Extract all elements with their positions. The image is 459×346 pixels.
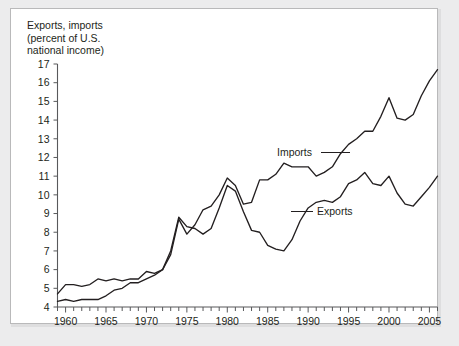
x-tick-label: 1975 xyxy=(175,315,199,327)
x-tick-label: 2000 xyxy=(377,315,401,327)
x-tick-label: 1960 xyxy=(54,315,78,327)
x-tick-label: 1985 xyxy=(256,315,280,327)
y-tick-label: 7 xyxy=(44,245,50,257)
y-tick-label: 5 xyxy=(44,282,50,294)
y-tick-label: 6 xyxy=(44,263,50,275)
y-tick-label: 13 xyxy=(38,133,50,145)
y-tick-label: 4 xyxy=(44,301,50,313)
x-tick-label: 1995 xyxy=(337,315,361,327)
y-tick-label: 11 xyxy=(39,170,50,182)
x-tick-label: 2005 xyxy=(418,315,442,327)
caption-strip xyxy=(0,332,459,346)
imports-annotation-label: Imports xyxy=(277,146,312,158)
y-tick-label: 9 xyxy=(44,207,50,219)
exports-annotation-label: Exports xyxy=(317,205,353,217)
y-tick-label: 16 xyxy=(38,76,50,88)
x-axis-tick-labels: 1960196519701975198019851990199520002005 xyxy=(54,315,441,327)
y-tick-label: 8 xyxy=(44,226,50,238)
x-tick-label: 1965 xyxy=(94,315,118,327)
y-tick-label: 12 xyxy=(38,151,50,163)
x-axis-ticks xyxy=(58,307,438,313)
figure-root: Exports, imports (percent of U.S. nation… xyxy=(0,0,459,346)
y-axis-tick-labels: 4567891011121314151617 xyxy=(38,58,50,313)
y-tick-label: 15 xyxy=(38,95,50,107)
y-tick-label: 10 xyxy=(38,189,50,201)
line-chart-plot: 4567891011121314151617 19601965197019751… xyxy=(0,0,459,346)
y-tick-label: 17 xyxy=(38,58,50,70)
x-tick-label: 1980 xyxy=(216,315,240,327)
y-axis-ticks xyxy=(54,64,58,307)
x-tick-label: 1990 xyxy=(296,315,320,327)
series-line-exports xyxy=(58,172,438,294)
x-tick-label: 1970 xyxy=(135,315,159,327)
y-tick-label: 14 xyxy=(38,114,50,126)
